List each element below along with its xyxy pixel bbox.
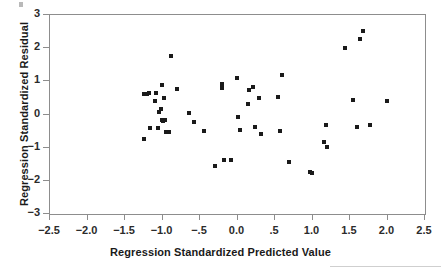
x-axis-tick-mark <box>124 214 125 220</box>
data-point <box>310 171 314 175</box>
data-point <box>385 99 389 103</box>
data-point <box>322 140 326 144</box>
x-axis-tick-mark <box>87 214 88 220</box>
data-point <box>246 102 250 106</box>
plot-data-area <box>49 14 425 214</box>
x-axis-tick-label: 2.0 <box>367 224 407 236</box>
x-axis-tick-label: −2.0 <box>67 224 107 236</box>
data-point <box>358 37 362 41</box>
data-point <box>278 129 282 133</box>
y-axis-tick-label: 3 <box>0 8 40 19</box>
x-axis-tick-mark <box>237 214 238 220</box>
x-axis-tick-label: −2.5 <box>29 224 69 236</box>
data-point <box>287 160 291 164</box>
data-point <box>325 145 329 149</box>
data-point <box>163 118 167 122</box>
data-point <box>142 137 146 141</box>
y-axis-tick-label: −2 <box>0 174 40 185</box>
scatter-plot-figure: Regression Standardized Residual 3210−1−… <box>0 0 441 270</box>
data-point <box>253 125 257 129</box>
data-point <box>220 82 224 86</box>
x-axis-tick-mark <box>312 214 313 220</box>
x-axis-tick-mark <box>387 214 388 220</box>
x-axis-tick-mark <box>162 214 163 220</box>
x-axis-tick-mark <box>349 214 350 220</box>
data-point <box>148 126 152 130</box>
data-point <box>162 96 166 100</box>
x-axis-tick-label: 0.0 <box>217 224 257 236</box>
data-point <box>220 86 224 90</box>
data-point <box>257 96 261 100</box>
data-point <box>238 128 242 132</box>
y-axis-tick-mark <box>43 114 49 115</box>
data-point <box>153 99 157 103</box>
data-point <box>160 83 164 87</box>
x-axis-tick-mark <box>199 214 200 220</box>
y-axis-tick-mark <box>43 14 49 15</box>
data-point <box>368 123 372 127</box>
data-point <box>259 132 263 136</box>
x-axis-tick-label: 1.0 <box>292 224 332 236</box>
data-point <box>187 111 191 115</box>
y-axis-tick-mark <box>43 147 49 148</box>
y-axis-tick-mark <box>43 80 49 81</box>
data-point <box>147 91 151 95</box>
data-point <box>280 73 284 77</box>
x-axis-tick-mark <box>424 214 425 220</box>
x-axis-tick-label: −.5 <box>179 224 219 236</box>
data-point <box>343 46 347 50</box>
x-axis-tick-label: 1.5 <box>329 224 369 236</box>
data-point <box>251 85 255 89</box>
x-axis-tick-label: .5 <box>254 224 294 236</box>
data-point <box>154 91 158 95</box>
data-point <box>236 115 240 119</box>
data-point <box>175 87 179 91</box>
data-point <box>159 107 163 111</box>
data-point <box>169 54 173 58</box>
data-point <box>192 120 196 124</box>
y-axis-tick-label: −1 <box>0 141 40 152</box>
data-point <box>276 95 280 99</box>
x-axis-title: Regression Standardized Predicted Value <box>0 246 441 258</box>
y-axis-tick-label: 2 <box>0 41 40 52</box>
data-point <box>324 123 328 127</box>
x-axis-tick-label: −1.5 <box>104 224 144 236</box>
y-axis-tick-label: −3 <box>0 207 40 218</box>
y-axis-tick-mark <box>43 47 49 48</box>
y-axis-tick-label: 1 <box>0 74 40 85</box>
x-axis-tick-mark <box>274 214 275 220</box>
data-point <box>229 158 233 162</box>
x-axis-tick-label: −1.0 <box>142 224 182 236</box>
data-point <box>355 125 359 129</box>
data-point <box>351 98 355 102</box>
x-axis-tick-mark <box>49 214 50 220</box>
page-rule <box>330 266 441 267</box>
data-point <box>167 130 171 134</box>
data-point <box>235 76 239 80</box>
data-point <box>213 164 217 168</box>
x-axis-tick-label: 2.5 <box>404 224 441 236</box>
data-point <box>222 158 226 162</box>
y-axis-tick-mark <box>43 180 49 181</box>
y-axis-tick-label: 0 <box>0 108 40 119</box>
data-point <box>361 29 365 33</box>
data-point <box>156 126 160 130</box>
data-point <box>202 129 206 133</box>
